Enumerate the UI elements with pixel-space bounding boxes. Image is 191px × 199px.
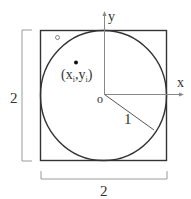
height-label: 2 <box>10 90 18 106</box>
monte-carlo-diagram: 2 2 y x o 1 (xi,yi) <box>0 0 191 199</box>
width-label: 2 <box>100 183 108 199</box>
x-axis-label: x <box>177 75 184 90</box>
height-bracket <box>22 30 32 161</box>
y-axis-arrow-icon <box>103 11 107 16</box>
sample-point-label: (xi,yi) <box>61 67 93 84</box>
width-bracket <box>41 171 167 179</box>
origin-label: o <box>97 92 103 106</box>
outside-point <box>56 36 60 40</box>
sample-point <box>74 61 78 65</box>
unit-circle <box>41 31 167 161</box>
svg-text:(xi,yi): (xi,yi) <box>61 67 93 84</box>
radius-label: 1 <box>124 111 132 127</box>
y-axis-label: y <box>108 9 115 24</box>
x-axis-arrow-icon <box>179 93 184 97</box>
